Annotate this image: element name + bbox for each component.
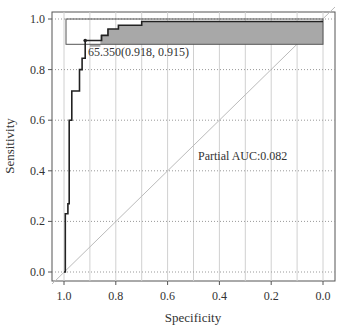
x-tick-1.0: 1.0: [57, 289, 72, 303]
x-tick-0.2: 0.2: [264, 289, 279, 303]
y-axis-title: Sensitivity: [2, 118, 17, 174]
threshold-label: 65.350(0.918, 0.915): [88, 45, 189, 59]
x-tick-0.8: 0.8: [108, 289, 123, 303]
y-tick-0.4: 0.4: [30, 164, 45, 178]
y-tick-0.6: 0.6: [30, 113, 45, 127]
x-axis-title: Specificity: [165, 310, 222, 325]
roc-chart: 65.350(0.918, 0.915) Partial AUC:0.082 0…: [0, 0, 346, 332]
x-axis: 1.0 0.8 0.6 0.4 0.2 0.0 Specificity: [57, 281, 331, 325]
y-axis: 0.0 0.2 0.4 0.6 0.8 1.0 Sensitivity: [2, 12, 52, 279]
threshold-point: [83, 39, 87, 43]
y-tick-0: 0.0: [30, 265, 45, 279]
y-tick-1.0: 1.0: [30, 12, 45, 26]
y-tick-0.2: 0.2: [30, 214, 45, 228]
x-tick-0.4: 0.4: [212, 289, 227, 303]
x-tick-0.6: 0.6: [160, 289, 175, 303]
x-tick-0.0: 0.0: [316, 289, 331, 303]
y-tick-0.8: 0.8: [30, 63, 45, 77]
partial-auc-label: Partial AUC:0.082: [198, 149, 287, 163]
